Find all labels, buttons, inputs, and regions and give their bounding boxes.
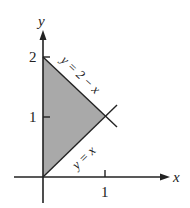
x-tick-label-1: 1 [101,184,109,200]
y-axis-arrow-icon [40,30,47,40]
y-axis-label: y [36,13,45,29]
region-diagram: y x 2 1 1 y = 2 − x y = x [0,0,190,208]
x-axis-arrow-icon [160,174,170,181]
x-axis-label: x [172,169,180,185]
y-tick-label-2: 2 [29,49,37,65]
y-tick-label-1: 1 [29,109,37,125]
